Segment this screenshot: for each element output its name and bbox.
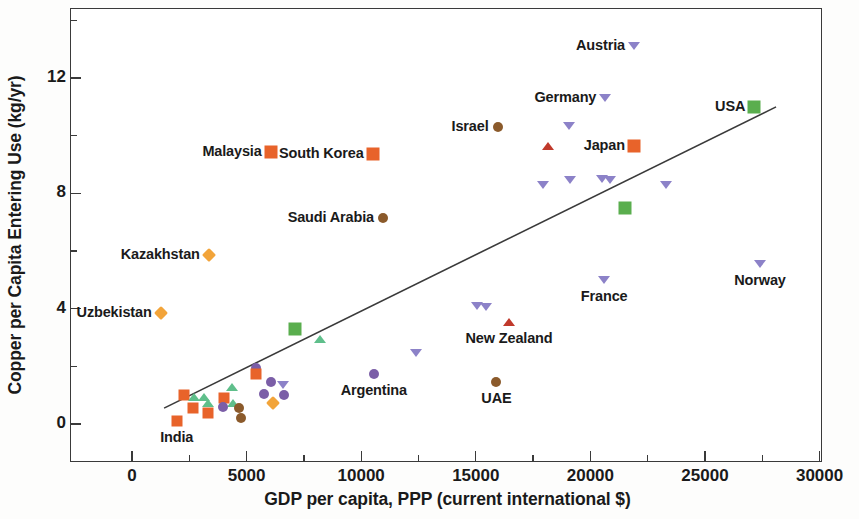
data-point-label: Japan (584, 137, 625, 153)
data-point-circle[interactable] (491, 377, 501, 387)
data-point-label: Saudi Arabia (288, 209, 374, 225)
data-point-square-lg[interactable] (627, 139, 640, 152)
x-tick-label: 25000 (681, 466, 728, 486)
data-point-label: France (581, 288, 628, 304)
data-point-square[interactable] (202, 408, 213, 419)
x-tick-label: 0 (127, 466, 136, 486)
y-tick-label: 0 (57, 413, 66, 433)
data-point-label: Uzbekistan (77, 304, 152, 320)
data-point-label: Germany (534, 89, 596, 105)
data-point-square-lg[interactable] (288, 322, 301, 335)
data-point-label: Israel (452, 118, 489, 134)
data-point-tri-down[interactable] (564, 176, 576, 184)
x-axis-title: GDP per capita, PPP (current internation… (70, 489, 825, 510)
data-point-label: Norway (734, 272, 785, 288)
data-point-tri-down[interactable] (628, 42, 640, 50)
y-axis-title: Copper per Capita Entering Use (kg/yr) (2, 0, 28, 470)
data-point-square[interactable] (187, 403, 198, 414)
x-tick-label: 5000 (228, 466, 266, 486)
data-point-tri-down[interactable] (537, 181, 549, 189)
data-point-tri-up[interactable] (202, 399, 214, 407)
y-tick-label: 4 (57, 298, 66, 318)
data-point-label: India (160, 429, 193, 445)
x-tick-label: 15000 (452, 466, 499, 486)
data-point-tri-down[interactable] (599, 94, 611, 102)
data-point-label: UAE (481, 390, 511, 406)
data-point-tri-up[interactable] (503, 318, 515, 326)
data-point-tri-up[interactable] (542, 142, 554, 150)
data-point-square-lg[interactable] (264, 145, 277, 158)
data-point-circle[interactable] (369, 369, 379, 379)
plot-data-area: IndiaUzbekistanKazakhstanMalaysiaSouth K… (70, 8, 822, 462)
data-point-label: Malaysia (202, 143, 261, 159)
data-point-tri-down[interactable] (754, 260, 766, 268)
x-tick-label: 20000 (567, 466, 614, 486)
data-point-diamond[interactable] (154, 306, 168, 320)
data-point-diamond[interactable] (266, 396, 280, 410)
data-point-label: Kazakhstan (121, 246, 200, 262)
data-point-tri-down[interactable] (563, 122, 575, 130)
data-point-label: Argentina (341, 382, 407, 398)
data-point-label: South Korea (279, 145, 364, 161)
data-point-diamond[interactable] (202, 248, 216, 262)
data-point-square-lg[interactable] (618, 201, 631, 214)
data-point-circle[interactable] (236, 413, 246, 423)
data-point-circle[interactable] (493, 122, 503, 132)
data-point-circle[interactable] (218, 402, 228, 412)
data-point-circle[interactable] (234, 403, 244, 413)
x-tick-label: 10000 (338, 466, 385, 486)
data-point-circle[interactable] (378, 213, 388, 223)
data-point-square[interactable] (250, 369, 261, 380)
data-point-tri-down[interactable] (598, 276, 610, 284)
data-point-tri-up[interactable] (226, 383, 238, 391)
data-point-square-lg[interactable] (748, 100, 761, 113)
data-point-label: USA (715, 98, 745, 114)
y-tick-label: 8 (57, 182, 66, 202)
data-point-circle[interactable] (259, 389, 269, 399)
scatter-chart: Copper per Capita Entering Use (kg/yr) G… (0, 0, 859, 519)
data-point-tri-down[interactable] (660, 181, 672, 189)
data-point-circle[interactable] (266, 377, 276, 387)
data-point-tri-down[interactable] (604, 176, 616, 184)
data-point-circle[interactable] (279, 390, 289, 400)
x-tick-label: 30000 (796, 466, 843, 486)
y-tick-label: 12 (47, 67, 66, 87)
data-point-square[interactable] (171, 415, 182, 426)
data-point-tri-down[interactable] (410, 349, 422, 357)
data-point-tri-down[interactable] (277, 381, 289, 389)
data-point-tri-down[interactable] (480, 303, 492, 311)
data-point-label: New Zealand (466, 330, 553, 346)
data-point-square-lg[interactable] (366, 148, 379, 161)
data-point-label: Austria (576, 37, 625, 53)
data-point-tri-up[interactable] (314, 335, 326, 343)
